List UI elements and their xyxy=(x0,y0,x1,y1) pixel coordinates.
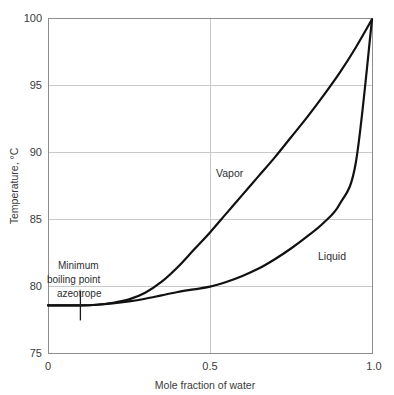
y-tick-90: 90 xyxy=(30,146,42,158)
x-tick-0: 0 xyxy=(45,360,51,372)
x-axis-title: Mole fraction of water xyxy=(155,379,256,391)
azeotrope-annotation-line1: Minimum xyxy=(58,260,99,271)
chart-page: Minimum boiling point azeotrope Vapor Li… xyxy=(0,0,394,395)
y-tick-75: 75 xyxy=(30,347,42,359)
curve-label-vapor: Vapor xyxy=(216,167,244,179)
y-tick-100: 100 xyxy=(24,12,42,24)
y-tick-85: 85 xyxy=(30,213,42,225)
y-tick-80: 80 xyxy=(30,280,42,292)
y-tick-95: 95 xyxy=(30,79,42,91)
x-tick-1.0: 1.0 xyxy=(366,360,381,372)
azeotrope-annotation-line2: boiling point xyxy=(47,274,101,285)
y-axis-title: Temperature, °C xyxy=(8,147,20,224)
phase-diagram-chart: Minimum boiling point azeotrope Vapor Li… xyxy=(0,0,394,395)
azeotrope-annotation-line3: azeotrope xyxy=(57,288,102,299)
curve-label-liquid: Liquid xyxy=(318,250,346,262)
chart-background xyxy=(0,0,394,395)
x-tick-0.5: 0.5 xyxy=(202,360,217,372)
